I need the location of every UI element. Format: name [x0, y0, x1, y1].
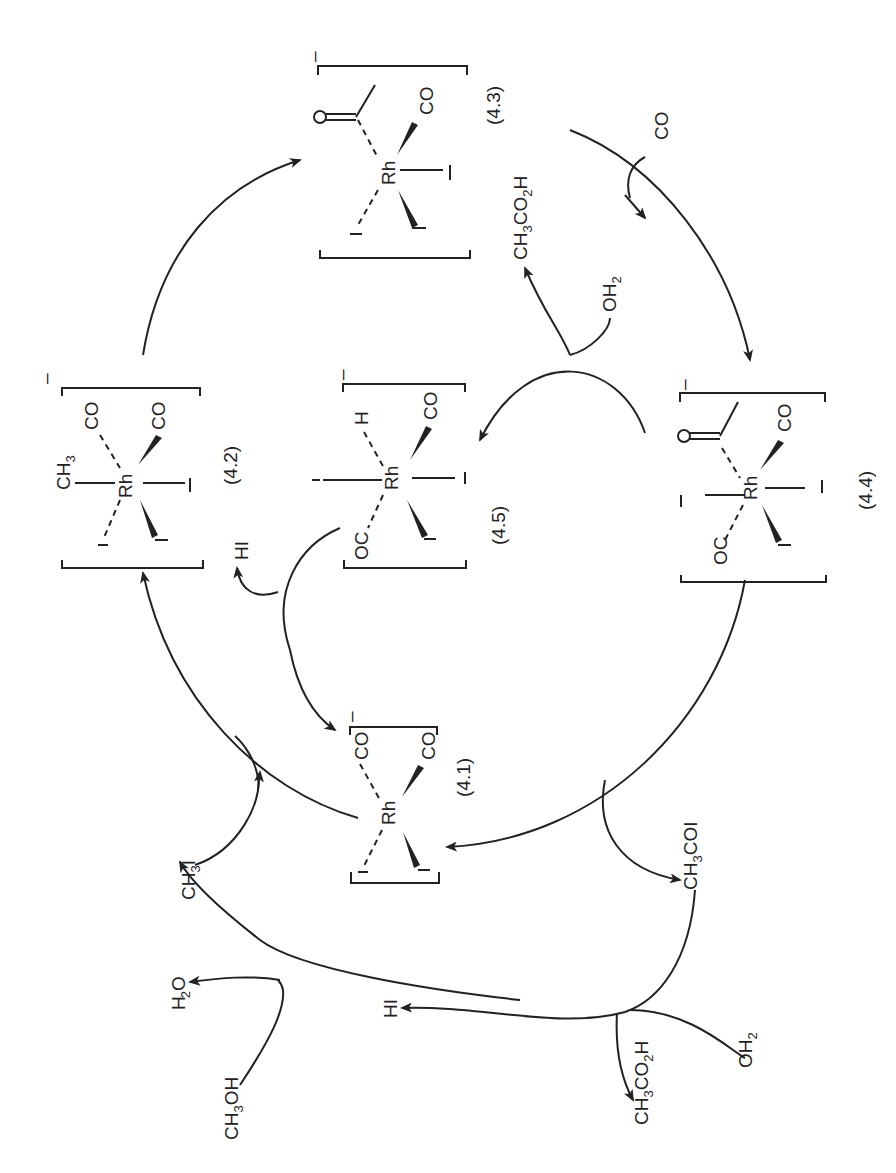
charge-label: – [331, 369, 352, 380]
dash-bond-oc [368, 495, 383, 528]
hi-inner-label: HI [231, 541, 252, 560]
oc-ligand: OC [710, 537, 731, 566]
dash-bond-h [364, 432, 384, 468]
oh2-inner-label: OH2 [599, 276, 624, 312]
rh-label: Rh [115, 474, 136, 498]
bracket-right [320, 250, 470, 258]
bracket-right [351, 872, 439, 883]
charge-label: – [340, 711, 361, 722]
arrow-ch3coi-out [603, 780, 680, 880]
complex-4-2: – CH3I CH3 CO Rh CO (4.2) [35, 373, 241, 568]
bracket-left [318, 66, 467, 75]
arrow-4-5-to-4-1 [284, 528, 340, 730]
label-4-5: (4.5) [488, 506, 509, 545]
wedge-i [407, 500, 428, 538]
hi-outer-label: HI [380, 999, 401, 1018]
arrow-4-4-to-4-5 [480, 372, 645, 440]
bracket-left [62, 388, 200, 396]
dash-bond-acyl [722, 448, 740, 478]
arrow-4-3-to-4-4 [570, 130, 750, 360]
dash-bond-acyl [358, 120, 378, 158]
rh-label: Rh [381, 466, 402, 490]
acid-inner-out [525, 268, 570, 355]
ch3i-label: CH3I [178, 860, 203, 900]
charge-label: – [303, 51, 324, 62]
oh2-outer-label: OH2 [735, 1032, 760, 1068]
rh-label: Rh [378, 801, 399, 825]
complex-4-4: – Rh CO OC (4.4) [673, 379, 876, 582]
co-ligand-2: CO [148, 402, 169, 431]
label-4-2: (4.2) [220, 446, 241, 485]
co-ligand-1: CO [351, 732, 372, 761]
wedge-i [140, 500, 158, 538]
inner-cycle [237, 268, 645, 730]
arrow-h2o-out [190, 977, 280, 982]
acyl-methyl-bond [356, 85, 375, 117]
wedge-i [398, 190, 418, 228]
label-4-1: (4.1) [453, 758, 474, 797]
acyl-oxygen [314, 111, 326, 123]
complex-4-1: – CO Rh CO (4.1) [340, 711, 474, 883]
rh-label: Rh [378, 161, 399, 185]
label-4-3: (4.3) [483, 86, 504, 125]
charge-label: – [35, 373, 56, 384]
label-4-4: (4.4) [855, 471, 876, 510]
dash-bond-oc [725, 505, 743, 540]
bracket-right [344, 560, 466, 568]
bracket-left [680, 393, 825, 402]
acyl-double-bond [690, 433, 720, 439]
dash-bond-co [360, 764, 380, 800]
acid-outer-label: CH3CO2H [631, 1041, 656, 1125]
acyl-oxygen [678, 430, 690, 442]
co-ligand-2: CO [418, 732, 439, 761]
charge-label: – [673, 379, 694, 390]
h2o-label: H2O [168, 976, 193, 1010]
wedge-co [397, 122, 418, 155]
acyl-double-bond [326, 114, 356, 120]
catalytic-cycle-diagram: – Rh CO (4.3) – CH3I CH3 CO Rh CO ( [0, 0, 896, 1173]
arrow-4-2-to-4-3 [143, 160, 300, 355]
wedge-co [138, 435, 162, 465]
ch3oh-in [240, 980, 283, 1085]
arrow-4-4-to-4-1 [447, 580, 745, 847]
co-ligand-1: CO [81, 402, 102, 431]
wedge-co [410, 426, 432, 460]
complex-4-5: – H Rh CO OC (4.5) [312, 369, 509, 568]
dash-bond-co [100, 435, 120, 468]
ch3i-join [235, 736, 258, 778]
dash-bond-i [103, 500, 120, 540]
oh2-inner-in [570, 318, 610, 355]
wedge-co [402, 765, 424, 797]
hi-inner-out [237, 568, 278, 595]
arrow-ch3coi-to-hi [402, 890, 695, 1019]
acid-inner-label: CH3CO2H [510, 176, 535, 260]
co-ligand: CO [416, 87, 437, 116]
outer-cycle [180, 862, 745, 1100]
wedge-i [762, 505, 782, 543]
ch3coi-label: CH3COI [680, 822, 705, 890]
complex-4-3: – Rh CO (4.3) [303, 51, 504, 258]
bracket-right [681, 575, 826, 582]
bracket-left [343, 384, 465, 392]
arrow-ch3i-in [195, 778, 258, 865]
ch3oh-label: CH3OH [221, 1077, 246, 1140]
oc-ligand: OC [351, 532, 372, 561]
wedge-co [760, 440, 784, 470]
acyl-methyl-bond [720, 402, 738, 436]
wedge-i [403, 832, 420, 868]
co-in-arrowhead [625, 195, 645, 218]
rh-label: Rh [740, 476, 761, 500]
co-ligand: CO [774, 404, 795, 433]
main-cycle [143, 130, 750, 847]
dash-bond-i [358, 190, 378, 225]
co-reagent-label: CO [651, 112, 672, 141]
ch3-ligand-text: CH3 [53, 455, 78, 490]
arrow-4-1-to-4-2 [143, 573, 358, 818]
h-ligand: H [351, 411, 372, 425]
dash-bond-i [363, 830, 382, 868]
bracket-right [62, 560, 203, 568]
co-ligand: CO [420, 392, 441, 421]
